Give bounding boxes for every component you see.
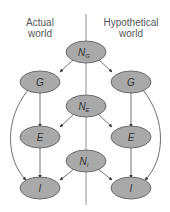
svg-text:I: I [130, 183, 133, 194]
hypothetical-label-2: world [118, 28, 143, 39]
causal-diagram: Actual world Hypothetical world NG G G N… [0, 0, 170, 212]
node-ne: NE [66, 95, 106, 117]
edge-ng-gr [98, 59, 112, 72]
node-i-left: I [20, 177, 60, 199]
node-g-left: G [20, 71, 60, 93]
node-i-right: I [111, 177, 151, 199]
node-g-right: G [111, 71, 151, 93]
edge-ng-gl [60, 59, 74, 72]
actual-label-1: Actual [26, 17, 54, 28]
actual-label-2: world [27, 28, 52, 39]
svg-text:E: E [128, 132, 135, 143]
edge-ni-ir [98, 169, 112, 180]
hypothetical-label-1: Hypothetical [103, 17, 158, 28]
svg-text:G: G [127, 77, 135, 88]
node-ni: NI [66, 150, 106, 172]
svg-text:G: G [36, 77, 44, 88]
node-ng: NG [66, 41, 106, 63]
svg-text:E: E [37, 132, 44, 143]
edge-ni-il [60, 169, 74, 180]
svg-text:I: I [39, 183, 42, 194]
node-e-left: E [20, 126, 60, 148]
edge-ne-el [60, 114, 74, 127]
node-e-right: E [111, 126, 151, 148]
edge-ne-er [98, 114, 112, 127]
